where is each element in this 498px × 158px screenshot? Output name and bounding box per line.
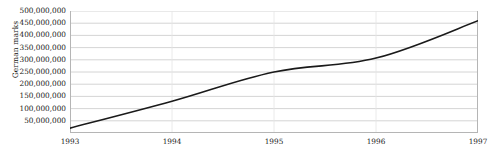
plot-svg bbox=[70, 11, 478, 133]
x-axis-tick-label: 1996 bbox=[346, 137, 406, 147]
y-axis-tick-label: 400,000,000 bbox=[8, 31, 66, 39]
y-axis-tick-label: 300,000,000 bbox=[8, 56, 66, 64]
y-axis-tick-label: 50,000,000 bbox=[8, 117, 66, 125]
y-axis-tick-label: 450,000,000 bbox=[8, 19, 66, 27]
y-axis-tick-labels: 500,000,000450,000,000400,000,000350,000… bbox=[8, 0, 66, 158]
x-axis-tick-label: 1995 bbox=[244, 137, 304, 147]
x-axis-tick-label: 1993 bbox=[40, 137, 100, 147]
y-axis-tick-label: 150,000,000 bbox=[8, 92, 66, 100]
y-axis-tick-label: 100,000,000 bbox=[8, 105, 66, 113]
x-axis-tick-label: 1994 bbox=[142, 137, 202, 147]
x-axis-tick-label: 1997 bbox=[448, 137, 498, 147]
line-chart: German marks 500,000,000450,000,000400,0… bbox=[0, 0, 498, 158]
y-axis-tick-label: 350,000,000 bbox=[8, 44, 66, 52]
y-axis-tick-label: 200,000,000 bbox=[8, 80, 66, 88]
y-axis-tick-label: 250,000,000 bbox=[8, 68, 66, 76]
x-axis-tick-labels: 19931994199519961997 bbox=[0, 137, 498, 153]
y-axis-tick-label: 500,000,000 bbox=[8, 7, 66, 15]
plot-area bbox=[70, 11, 478, 133]
